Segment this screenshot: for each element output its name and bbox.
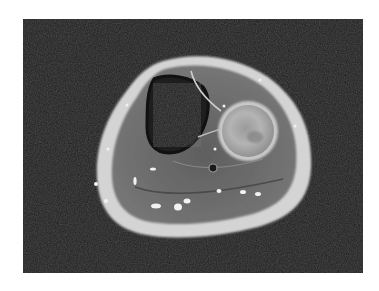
mri-image-frame: [23, 19, 363, 273]
bright-bone-marrow: [222, 105, 274, 157]
mri-image: [23, 19, 363, 273]
vessel-ring: [209, 164, 217, 172]
